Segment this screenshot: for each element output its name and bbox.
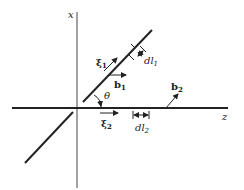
dislocation-line-1-extension — [25, 112, 73, 163]
x-axis-label: x — [68, 9, 74, 20]
z-axis-label: z — [221, 111, 228, 122]
dislocation-line-1 — [83, 30, 152, 102]
xi1-label: ξ1 — [96, 57, 107, 70]
b2-arrow — [166, 94, 178, 108]
dl2-marker — [133, 111, 149, 119]
diagram-canvas: x z ξ1 b1 dl1 θ ξ2 dl2 b2 — [0, 0, 244, 190]
dl1-label: dl1 — [144, 55, 158, 68]
dl2-label: dl2 — [135, 122, 150, 135]
theta-label: θ — [104, 90, 110, 101]
theta-arrow — [100, 101, 101, 106]
b1-label: b1 — [114, 79, 126, 92]
xi2-label: ξ2 — [101, 118, 112, 131]
b2-label: b2 — [171, 81, 183, 94]
